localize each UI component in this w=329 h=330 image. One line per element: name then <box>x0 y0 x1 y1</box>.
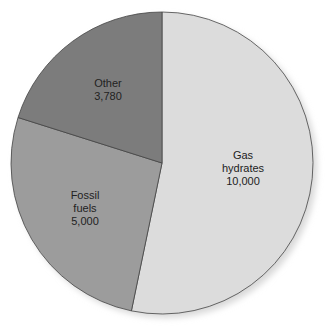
pie-chart <box>0 0 329 330</box>
slice-label-fossil-fuels: Fossil fuels 5,000 <box>71 189 100 228</box>
slice-label-gas-hydrates: Gas hydrates 10,000 <box>222 149 264 188</box>
slice-label-other: Other 3,780 <box>94 77 122 103</box>
